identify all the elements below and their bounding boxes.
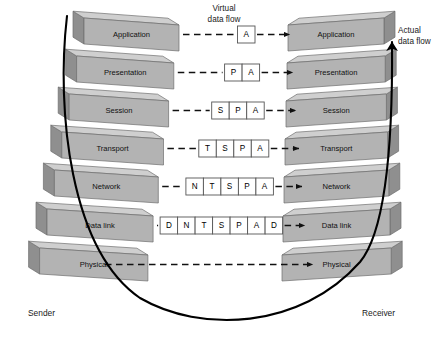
- actual-flow-label-line1: Actual: [398, 26, 421, 35]
- pdu-cell-label-network-0: N: [192, 182, 198, 191]
- pdu-cell-label-transport-1: S: [222, 144, 228, 153]
- sender-layer-presentation-label: Presentation: [104, 68, 147, 77]
- receiver-layer-transport-label: Transport: [320, 144, 353, 153]
- pdu-cell-label-transport-2: P: [240, 144, 246, 153]
- virtual-flow-label-line2: data flow: [208, 15, 241, 24]
- pdu-cell-label-application-0: A: [244, 30, 250, 39]
- pdu-cell-label-transport-3: A: [257, 144, 263, 153]
- pdu-cell-label-presentation-0: P: [231, 68, 237, 77]
- pdu-cell-label-data-link-1: N: [183, 221, 189, 230]
- receiver-layer-data-link-label: Data link: [322, 221, 352, 230]
- pdu-cell-label-data-link-6: D: [271, 221, 277, 230]
- pdu-cell-label-network-3: P: [244, 182, 250, 191]
- pdu-cell-label-transport-0: T: [205, 144, 210, 153]
- receiver-layer-network-label: Network: [322, 182, 350, 191]
- receiver-layer-session-label: Session: [323, 106, 350, 115]
- sender-layer-application-label: Application: [113, 30, 150, 39]
- sender-layer-session-label: Session: [105, 106, 132, 115]
- pdu-cell-label-network-1: T: [210, 182, 215, 191]
- receiver-layer-physical-label: Physical: [322, 260, 351, 269]
- pdu-cell-label-network-2: S: [227, 182, 233, 191]
- virtual-flow-label-line1: Virtual: [212, 4, 235, 13]
- pdu-cell-label-session-0: S: [218, 106, 224, 115]
- pdu-cell-label-presentation-1: A: [248, 68, 254, 77]
- sender-layer-transport-label: Transport: [96, 144, 129, 153]
- osi-encapsulation-diagram: ApplicationPresentationSessionTransportN…: [0, 0, 443, 339]
- pdu-row-data-link: DNTSPAD: [157, 217, 305, 234]
- pdu-cell-label-data-link-3: S: [219, 221, 225, 230]
- sender-layer-physical-label: Physical: [80, 260, 109, 269]
- receiver-layer-application-label: Application: [317, 30, 354, 39]
- pdu-cell-label-session-1: P: [235, 106, 241, 115]
- actual-flow-label-line2: data flow: [398, 37, 431, 46]
- receiver-layer-presentation-label: Presentation: [315, 68, 358, 77]
- receiver-caption: Receiver: [362, 308, 395, 318]
- pdu-cell-label-data-link-5: A: [254, 221, 260, 230]
- pdu-cell-label-network-4: A: [262, 182, 268, 191]
- pdu-cell-label-data-link-2: T: [201, 221, 206, 230]
- pdu-cell-label-data-link-4: P: [236, 221, 242, 230]
- pdu-cell-label-data-link-0: D: [166, 221, 172, 230]
- diagram-canvas: ApplicationPresentationSessionTransportN…: [0, 0, 443, 339]
- sender-layer-network-label: Network: [92, 182, 120, 191]
- sender-caption: Sender: [28, 308, 55, 318]
- pdu-cell-label-session-2: A: [253, 106, 259, 115]
